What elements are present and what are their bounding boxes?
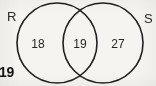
set-label-r: R (7, 10, 16, 23)
region-value-left-only: 18 (31, 38, 44, 50)
set-label-s: S (144, 12, 153, 25)
margin-annotation: 19 (0, 65, 14, 79)
venn-diagram-page: R S 18 19 27 19 (0, 0, 156, 86)
region-value-intersection: 19 (73, 38, 86, 50)
region-value-right-only: 27 (111, 38, 124, 50)
